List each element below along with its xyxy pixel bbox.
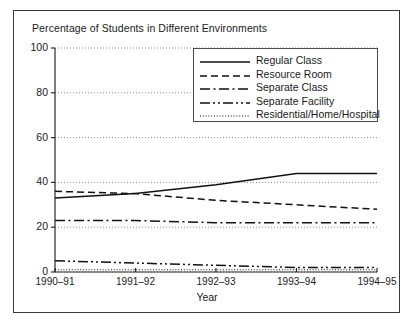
y-tick-label-60: 60 — [22, 131, 48, 143]
y-tick-label-80: 80 — [22, 86, 48, 98]
series-line-1 — [55, 191, 377, 209]
y-tick-label-100: 100 — [22, 41, 48, 53]
legend-swatch-1 — [199, 68, 251, 80]
legend-item-0: Regular Class — [199, 53, 322, 67]
legend-label-1: Resource Room — [256, 68, 332, 80]
figure: Percentage of Students in Different Envi… — [0, 0, 414, 330]
legend-label-4: Residential/Home/Hospital — [256, 108, 380, 120]
legend: Regular ClassResource RoomSeparate Class… — [193, 48, 378, 122]
legend-label-0: Regular Class — [256, 54, 322, 66]
x-tick-label-4: 1994–95 — [342, 276, 412, 287]
legend-label-2: Separate Class — [256, 81, 328, 93]
x-tick-label-0: 1990–91 — [20, 276, 90, 287]
legend-item-2: Separate Class — [199, 80, 328, 94]
y-tick-label-20: 20 — [22, 220, 48, 232]
legend-label-3: Separate Facility — [256, 95, 334, 107]
series-lines — [55, 173, 377, 269]
legend-item-3: Separate Facility — [199, 94, 334, 108]
legend-swatch-0 — [199, 54, 251, 66]
series-line-0 — [55, 173, 377, 198]
x-tick-label-2: 1992–93 — [181, 276, 251, 287]
x-tick-label-3: 1993–94 — [262, 276, 332, 287]
legend-swatch-3 — [199, 95, 251, 107]
legend-swatch-2 — [199, 81, 251, 93]
legend-item-4: Residential/Home/Hospital — [199, 107, 380, 121]
legend-item-1: Resource Room — [199, 67, 332, 81]
legend-swatch-4 — [199, 108, 251, 120]
x-axis-title: Year — [0, 291, 414, 303]
y-tick-label-40: 40 — [22, 175, 48, 187]
series-line-2 — [55, 220, 377, 222]
x-tick-label-1: 1991–92 — [101, 276, 171, 287]
series-line-3 — [55, 261, 377, 268]
